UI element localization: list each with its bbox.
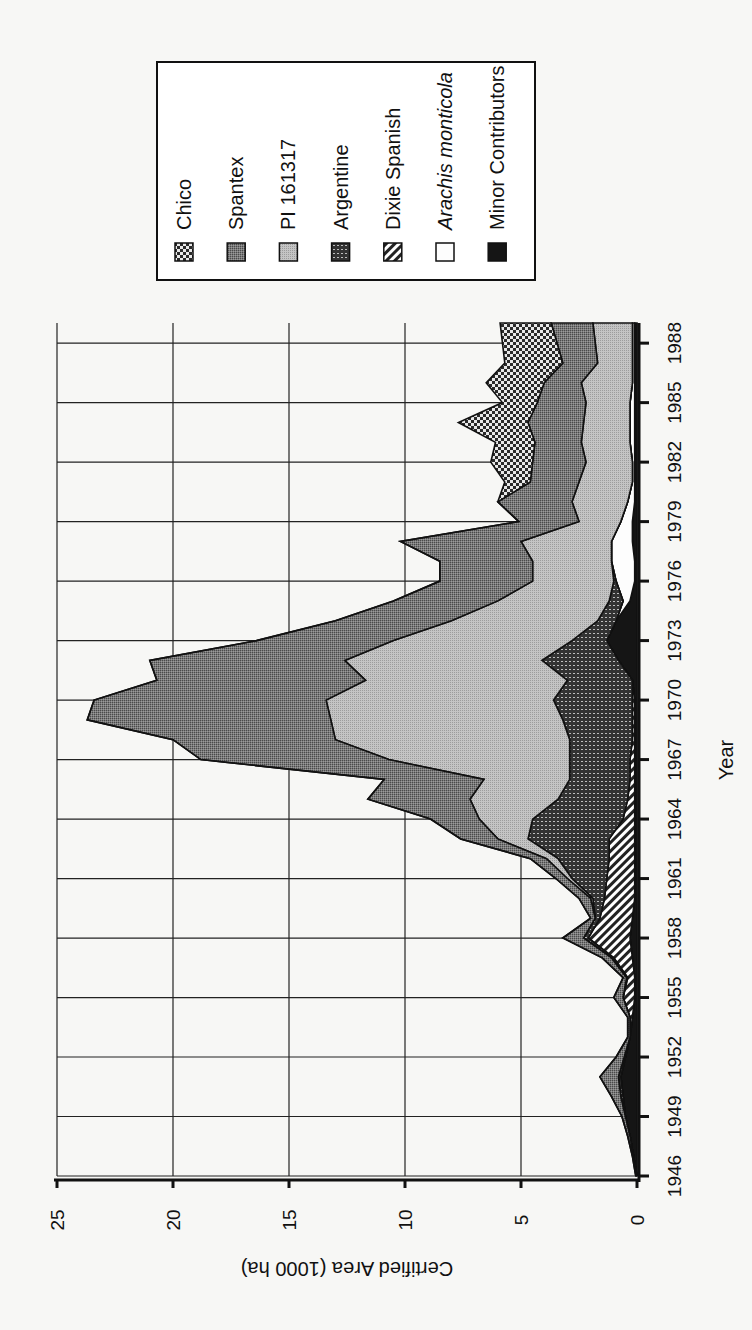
year-tick-label: 1979	[664, 500, 685, 542]
value-tick-label: 5	[511, 1215, 532, 1226]
value-tick-label: 0	[627, 1215, 648, 1226]
year-tick-label: 1964	[664, 797, 685, 840]
legend-swatch-icon	[175, 243, 193, 261]
value-tick-label: 10	[395, 1209, 416, 1230]
year-tick-label: 1955	[664, 976, 685, 1018]
legend-swatch-icon	[384, 243, 402, 261]
legend-label: Argentine	[330, 144, 352, 230]
legend-swatch-icon	[227, 243, 245, 261]
legend-label: Arachis monticola	[434, 72, 456, 231]
year-tick-label: 1952	[664, 1036, 685, 1078]
year-tick-label: 1970	[664, 679, 685, 721]
value-axis-ticks: 0510152025	[47, 1180, 648, 1231]
value-axis-title: Certified Area (1000 ha)	[241, 1258, 453, 1280]
year-tick-label: 1961	[664, 857, 685, 899]
value-tick-label: 15	[279, 1209, 300, 1230]
value-tick-label: 20	[163, 1209, 184, 1230]
stacked-area-chart: 0510152025 19461949195219551958196119641…	[0, 0, 752, 1330]
year-tick-label: 1967	[664, 738, 685, 780]
stacked-areas	[87, 323, 637, 1176]
year-tick-label: 1958	[664, 917, 685, 959]
legend-label: Dixie Spanish	[382, 108, 404, 230]
legend-label: PI 161317	[277, 139, 299, 230]
year-tick-label: 1976	[664, 560, 685, 602]
year-axis-title: Year	[715, 739, 737, 780]
year-axis-ticks: 1946194919521955195819611964196719701973…	[639, 322, 685, 1197]
legend-swatch-icon	[488, 243, 506, 261]
legend-swatch-icon	[436, 243, 454, 261]
year-tick-label: 1949	[664, 1095, 685, 1137]
value-tick-label: 25	[47, 1209, 68, 1230]
legend-label: Spantex	[225, 157, 247, 230]
legend-label: Minor Contributors	[486, 65, 508, 230]
legend: ChicoSpantexPI 161317ArgentineDixie Span…	[157, 62, 535, 280]
legend-label: Chico	[173, 179, 195, 230]
year-tick-label: 1973	[664, 619, 685, 661]
year-tick-label: 1988	[664, 322, 685, 364]
year-tick-label: 1982	[664, 441, 685, 483]
year-tick-label: 1946	[664, 1155, 685, 1197]
legend-swatch-icon	[332, 243, 350, 261]
year-tick-label: 1985	[664, 381, 685, 423]
legend-swatch-icon	[279, 243, 297, 261]
